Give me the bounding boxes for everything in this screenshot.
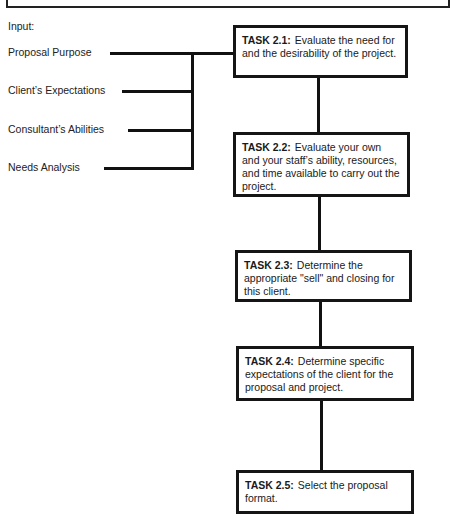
input-clients-expectations: Client’s Expectations bbox=[8, 84, 105, 96]
task-box-2-3: TASK 2.3:Determine the appropriate "sell… bbox=[235, 250, 412, 302]
connector-2-3-to-2-4 bbox=[319, 300, 322, 348]
connector-needs-analysis bbox=[104, 167, 194, 170]
connector-2-1-to-2-2 bbox=[317, 76, 320, 134]
connector-consultants-abilities bbox=[128, 129, 194, 132]
task-id: TASK 2.4: bbox=[245, 355, 294, 367]
task-box-2-4: TASK 2.4:Determine specific expectations… bbox=[236, 346, 414, 401]
input-heading: Input: bbox=[8, 20, 34, 32]
input-proposal-purpose: Proposal Purpose bbox=[8, 46, 91, 58]
task-box-2-1: TASK 2.1:Evaluate the need for and the d… bbox=[233, 25, 408, 78]
bracket-vertical-line bbox=[191, 52, 194, 170]
task-box-2-2: TASK 2.2:Evaluate your own and your staf… bbox=[233, 132, 410, 197]
input-consultants-abilities: Consultant’s Abilities bbox=[8, 123, 104, 135]
task-id: TASK 2.2: bbox=[242, 141, 291, 153]
task-box-2-5: TASK 2.5:Select the proposal format. bbox=[236, 470, 414, 514]
connector-2-4-to-2-5 bbox=[320, 398, 323, 472]
connector-2-2-to-2-3 bbox=[318, 195, 321, 252]
task-id: TASK 2.3: bbox=[244, 259, 293, 271]
connector-proposal-purpose bbox=[110, 52, 234, 55]
connector-clients-expectations bbox=[122, 90, 194, 93]
task-id: TASK 2.5: bbox=[245, 479, 294, 491]
input-needs-analysis: Needs Analysis bbox=[8, 161, 80, 173]
task-id: TASK 2.1: bbox=[242, 34, 291, 46]
top-frame-border bbox=[6, 0, 450, 8]
